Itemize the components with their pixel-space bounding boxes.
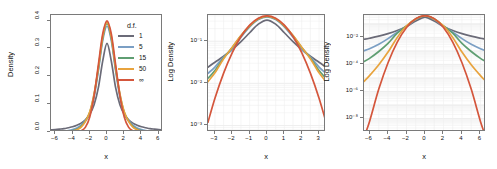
legend-color-swatch xyxy=(118,68,134,70)
legend-color-swatch xyxy=(118,46,134,48)
y-tickmark xyxy=(204,124,207,125)
legend-color-swatch xyxy=(118,79,134,81)
gridlines xyxy=(364,15,485,131)
x-tickmark xyxy=(231,131,232,134)
x-tickmark xyxy=(479,131,480,134)
legend-item-label: 1 xyxy=(139,33,143,40)
series-line-df-1 xyxy=(208,20,325,67)
series-line-df-50 xyxy=(51,22,162,131)
x-tick-label: 2 xyxy=(432,135,452,141)
legend-item-df-1[interactable]: 1 xyxy=(118,33,143,40)
y-tick-label: 10⁻¹ xyxy=(181,36,202,43)
y-tickmark xyxy=(360,117,363,118)
x-tickmark xyxy=(369,131,370,134)
x-tick-label: 6 xyxy=(469,135,489,141)
x-tick-label: 0 xyxy=(414,135,434,141)
y-axis-title-panel-2: Log Density xyxy=(166,42,175,82)
x-axis-title-panel-1: x xyxy=(50,152,162,161)
panel-density-linear: Density x −6−4−20246 0.00.10.20.30.4 d.f… xyxy=(0,0,168,169)
y-axis-title-panel-3: Log Density xyxy=(322,42,331,82)
panel-log-density-narrow: Log Density x −3−2−10123 10⁻¹10⁻²10⁻³ xyxy=(168,0,332,169)
x-axis-title-panel-2: x xyxy=(207,152,325,161)
y-tick-label: 0.0 xyxy=(34,122,46,130)
legend-item-df-5[interactable]: 5 xyxy=(118,44,143,51)
x-tickmark xyxy=(424,131,425,134)
legend-item-df-∞[interactable]: ∞ xyxy=(118,77,144,84)
y-tickmark xyxy=(47,103,50,104)
x-tickmark xyxy=(214,131,215,134)
legend-item-df-50[interactable]: 50 xyxy=(118,66,146,73)
x-tickmark xyxy=(387,131,388,134)
plot-area-panel-2 xyxy=(207,14,325,131)
y-tickmark xyxy=(360,90,363,91)
x-tickmark xyxy=(266,131,267,134)
x-tickmark xyxy=(442,131,443,134)
x-tickmark xyxy=(89,131,90,134)
x-tickmark xyxy=(123,131,124,134)
y-tick-label: 0.1 xyxy=(34,94,46,102)
x-tick-label: −4 xyxy=(377,135,397,141)
x-tick-label: −2 xyxy=(396,135,416,141)
y-tickmark xyxy=(47,131,50,132)
x-tickmark xyxy=(106,131,107,134)
y-tickmark xyxy=(360,63,363,64)
legend-color-swatch xyxy=(118,35,134,37)
y-tickmark xyxy=(47,75,50,76)
curves-panel-1 xyxy=(51,15,162,131)
x-tickmark xyxy=(158,131,159,134)
legend-item-df-15[interactable]: 15 xyxy=(118,55,146,62)
x-tickmark xyxy=(54,131,55,134)
y-tick-label: 10⁻² xyxy=(337,32,358,39)
x-tick-label: 6 xyxy=(148,135,168,141)
x-tickmark xyxy=(140,131,141,134)
legend-item-label: 15 xyxy=(139,55,146,62)
series-line-df-∞ xyxy=(51,21,162,131)
y-axis-title-panel-1: Density xyxy=(6,52,15,77)
gridlines xyxy=(208,15,325,131)
x-axis-title-panel-3: x xyxy=(363,152,485,161)
x-tickmark xyxy=(318,131,319,134)
legend-item-label: ∞ xyxy=(139,77,144,84)
x-tick-label: 4 xyxy=(451,135,471,141)
figure-root: Density x −6−4−20246 0.00.10.20.30.4 d.f… xyxy=(0,0,497,169)
y-tick-label: 0.4 xyxy=(34,11,46,19)
curves-panel-3 xyxy=(364,15,485,131)
x-tick-label: −6 xyxy=(359,135,379,141)
y-tick-label: 0.2 xyxy=(34,66,46,74)
legend-item-label: 5 xyxy=(139,44,143,51)
curves-panel-2 xyxy=(208,15,325,131)
series-line-df-15 xyxy=(51,24,162,131)
x-tickmark xyxy=(461,131,462,134)
y-tickmark xyxy=(47,20,50,21)
series-line-df-5 xyxy=(51,26,162,131)
legend-title: d.f. xyxy=(127,22,137,29)
y-tickmark xyxy=(204,40,207,41)
y-tick-label: 10⁻³ xyxy=(181,120,202,127)
y-tickmark xyxy=(47,47,50,48)
series-line-df-∞ xyxy=(208,16,325,122)
y-tick-label: 10⁻⁶ xyxy=(337,86,358,93)
y-tickmark xyxy=(204,82,207,83)
x-tickmark xyxy=(283,131,284,134)
x-tickmark xyxy=(406,131,407,134)
x-tickmark xyxy=(301,131,302,134)
x-tickmark xyxy=(72,131,73,134)
plot-area-panel-1 xyxy=(50,14,162,131)
plot-area-panel-3 xyxy=(363,14,485,131)
legend-color-swatch xyxy=(118,57,134,59)
x-tick-label: 3 xyxy=(308,135,328,141)
y-tick-label: 10⁻⁸ xyxy=(337,113,358,120)
panel-log-density-wide: Log Density x −6−4−20246 10⁻²10⁻⁴10⁻⁶10⁻… xyxy=(332,0,497,169)
y-tickmark xyxy=(360,36,363,37)
y-tick-label: 10⁻⁴ xyxy=(337,59,358,66)
series-line-df-50 xyxy=(208,16,325,81)
x-tickmark xyxy=(249,131,250,134)
y-tick-label: 10⁻² xyxy=(181,78,202,85)
y-tick-label: 0.3 xyxy=(34,38,46,46)
legend-item-label: 50 xyxy=(139,66,146,73)
